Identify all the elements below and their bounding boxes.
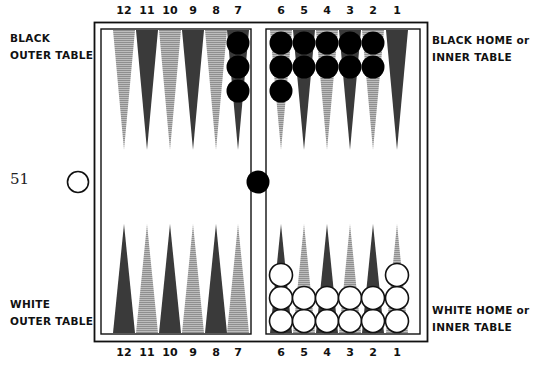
black-checker[interactable] [362,56,385,79]
black-checker[interactable] [227,80,250,103]
black-checker[interactable] [293,56,316,79]
white-checker[interactable] [386,287,409,310]
white-checker[interactable] [293,310,316,333]
white-checker[interactable] [270,287,293,310]
black-checker[interactable] [270,56,293,79]
black-checker[interactable] [339,56,362,79]
white-checker[interactable] [362,287,385,310]
black-checker[interactable] [227,32,250,55]
white-checker[interactable] [270,310,293,333]
black-checker[interactable] [362,32,385,55]
white-checker[interactable] [316,310,339,333]
white-checker[interactable] [386,264,409,287]
white-checker[interactable] [293,287,316,310]
black-checker[interactable] [227,56,250,79]
black-checker[interactable] [270,32,293,55]
white-checker[interactable] [339,310,362,333]
backgammon-board [0,0,539,373]
black-checker-on-bar[interactable] [247,171,270,194]
white-checker[interactable] [316,287,339,310]
black-checker[interactable] [339,32,362,55]
white-checker-borne-off[interactable] [68,172,89,193]
black-checker[interactable] [293,32,316,55]
black-checker[interactable] [316,56,339,79]
white-checker[interactable] [386,310,409,333]
white-checker[interactable] [270,264,293,287]
white-checker[interactable] [339,287,362,310]
black-checker[interactable] [270,80,293,103]
white-checker[interactable] [362,310,385,333]
black-checker[interactable] [316,32,339,55]
